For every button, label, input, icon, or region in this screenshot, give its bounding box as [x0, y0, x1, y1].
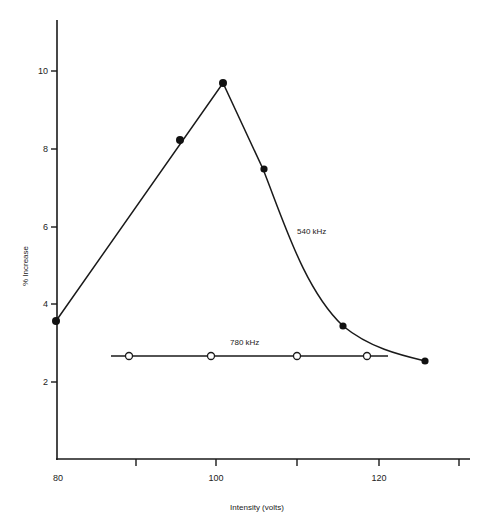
- y-axis-title: % Increase: [21, 245, 30, 286]
- x-tick-label-100: 100: [208, 473, 223, 483]
- y-tick-label-2: 2: [43, 377, 48, 387]
- x-tick-label-120: 120: [371, 473, 386, 483]
- x-tick-label-80: 80: [53, 473, 63, 483]
- y-ticks: [51, 71, 57, 382]
- series-540khz-line: [56, 83, 425, 361]
- y-tick-label-10: 10: [38, 66, 48, 76]
- x-axis-title: Intensity (volts): [230, 503, 284, 512]
- x-ticks: [136, 459, 459, 466]
- series-label-540khz: 540 kHz: [297, 227, 326, 236]
- line-chart: 10 8 6 4 2 80 100 120 Intensity (volts) …: [0, 0, 488, 519]
- y-tick-label-4: 4: [43, 299, 48, 309]
- y-tick-label-8: 8: [43, 144, 48, 154]
- series-label-780khz: 780 kHz: [230, 338, 259, 347]
- y-tick-label-6: 6: [43, 222, 48, 232]
